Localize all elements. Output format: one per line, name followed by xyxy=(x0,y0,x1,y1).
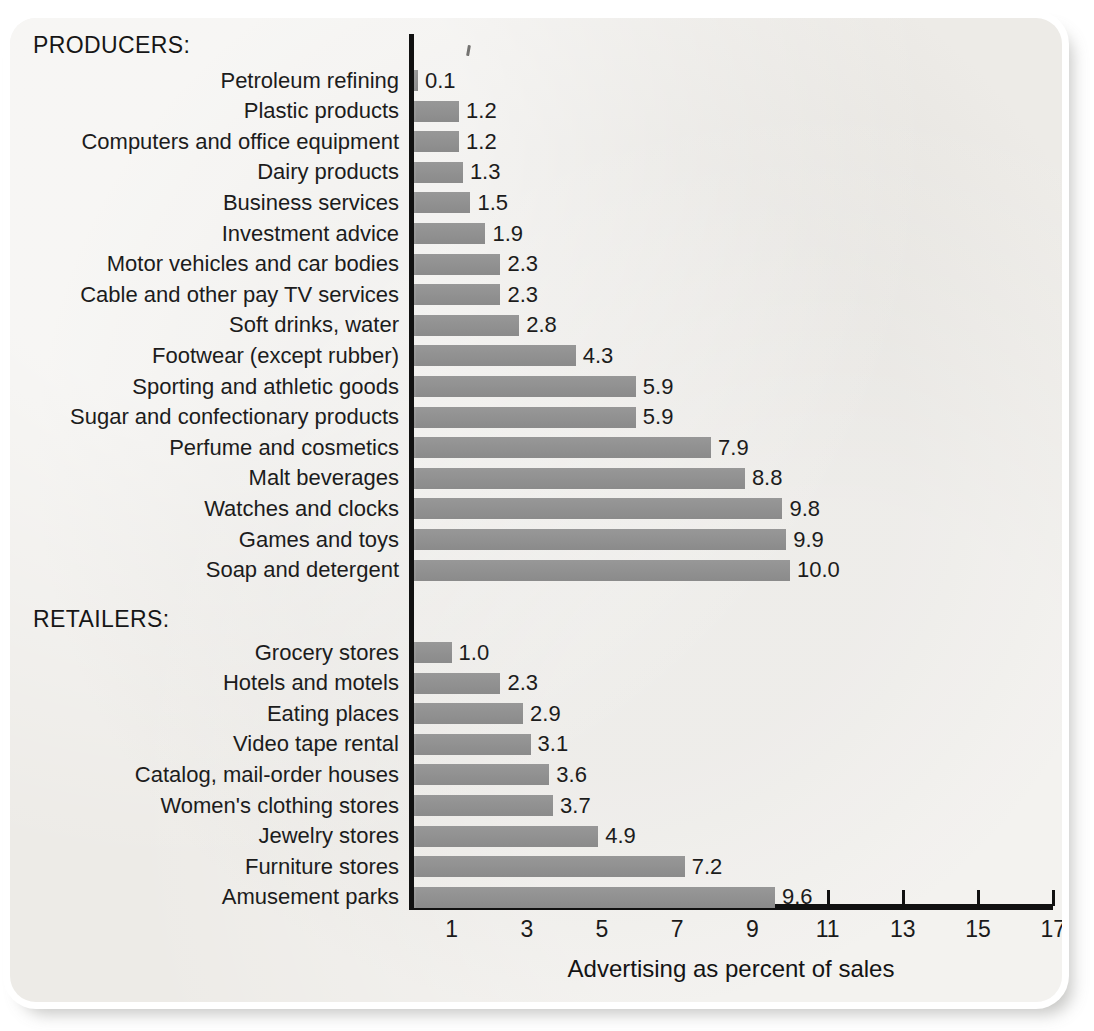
bar xyxy=(414,642,452,663)
category-label: Business services xyxy=(223,191,399,213)
category-label: Investment advice xyxy=(222,222,399,244)
bar-value-label: 4.9 xyxy=(605,825,636,847)
bar xyxy=(414,376,636,397)
bar xyxy=(414,673,500,694)
bar xyxy=(414,131,459,152)
category-label: Cable and other pay TV services xyxy=(80,283,399,305)
bar-row: Jewelry stores4.9 xyxy=(10,826,1062,847)
x-tick-label: 15 xyxy=(958,916,998,943)
bar xyxy=(414,498,782,519)
bar-row: Soap and detergent10.0 xyxy=(10,560,1062,581)
category-label: Women's clothing stores xyxy=(160,794,399,816)
scanned-chart-page: 1357911131517 Petroleum refining0.1Plast… xyxy=(10,18,1062,1002)
bar-value-label: 9.6 xyxy=(782,886,813,908)
bar-row: Footwear (except rubber)4.3 xyxy=(10,345,1062,366)
bar xyxy=(414,407,636,428)
bar xyxy=(414,437,711,458)
category-label: Petroleum refining xyxy=(220,69,399,91)
x-tick-label: 9 xyxy=(732,916,772,943)
horizontal-bar-chart: 1357911131517 Petroleum refining0.1Plast… xyxy=(10,18,1062,1002)
bar-row: Grocery stores1.0 xyxy=(10,642,1062,663)
category-label: Footwear (except rubber) xyxy=(152,344,399,366)
category-label: Plastic products xyxy=(244,100,399,122)
bar-value-label: 7.2 xyxy=(692,855,723,877)
category-label: Eating places xyxy=(267,702,399,724)
bar-value-label: 9.8 xyxy=(789,497,820,519)
category-label: Motor vehicles and car bodies xyxy=(107,253,399,275)
bar-value-label: 1.2 xyxy=(466,130,497,152)
bar-value-label: 1.9 xyxy=(492,222,523,244)
bar xyxy=(414,254,500,275)
bar-row: Eating places2.9 xyxy=(10,703,1062,724)
bar-value-label: 8.8 xyxy=(752,467,783,489)
category-label: Games and toys xyxy=(239,528,399,550)
bar-value-label: 7.9 xyxy=(718,436,749,458)
bar-row: Cable and other pay TV services2.3 xyxy=(10,284,1062,305)
bar-value-label: 2.3 xyxy=(507,283,538,305)
category-label: Jewelry stores xyxy=(258,825,399,847)
bar-value-label: 5.9 xyxy=(643,375,674,397)
bar-row: Sporting and athletic goods5.9 xyxy=(10,376,1062,397)
x-tick-label: 17 xyxy=(1033,916,1062,943)
category-label: Hotels and motels xyxy=(223,672,399,694)
bar-row: Malt beverages8.8 xyxy=(10,468,1062,489)
bar-value-label: 2.3 xyxy=(507,253,538,275)
bar-row: Soft drinks, water2.8 xyxy=(10,315,1062,336)
bar-row: Catalog, mail-order houses3.6 xyxy=(10,764,1062,785)
category-label: Soft drinks, water xyxy=(229,314,399,336)
category-label: Computers and office equipment xyxy=(81,130,399,152)
bar-value-label: 1.5 xyxy=(477,191,508,213)
category-label: Perfume and cosmetics xyxy=(169,436,399,458)
bar-value-label: 10.0 xyxy=(797,559,840,581)
bar xyxy=(414,764,549,785)
bar-value-label: 5.9 xyxy=(643,406,674,428)
bar-row: Watches and clocks9.8 xyxy=(10,498,1062,519)
bar-row: Dairy products1.3 xyxy=(10,162,1062,183)
bar-value-label: 3.7 xyxy=(560,794,591,816)
bar-value-label: 0.1 xyxy=(425,69,456,91)
bar-row: Computers and office equipment1.2 xyxy=(10,131,1062,152)
bar xyxy=(414,70,418,91)
bar xyxy=(414,223,485,244)
bar-row: Investment advice1.9 xyxy=(10,223,1062,244)
bar xyxy=(414,887,775,908)
category-label: Malt beverages xyxy=(249,467,399,489)
x-tick-label: 1 xyxy=(432,916,472,943)
bar-value-label: 2.3 xyxy=(507,672,538,694)
bar-row: Motor vehicles and car bodies2.3 xyxy=(10,254,1062,275)
x-tick-label: 7 xyxy=(657,916,697,943)
bar xyxy=(414,345,576,366)
bar xyxy=(414,101,459,122)
category-label: Watches and clocks xyxy=(204,497,399,519)
bar xyxy=(414,529,786,550)
bar-row: Games and toys9.9 xyxy=(10,529,1062,550)
category-label: Amusement parks xyxy=(222,886,399,908)
x-tick-label: 3 xyxy=(507,916,547,943)
bar xyxy=(414,856,685,877)
bar-value-label: 9.9 xyxy=(793,528,824,550)
category-label: Soap and detergent xyxy=(206,559,399,581)
bar xyxy=(414,560,790,581)
bar-row: Furniture stores7.2 xyxy=(10,856,1062,877)
bar-value-label: 2.9 xyxy=(530,702,561,724)
bar-value-label: 1.0 xyxy=(459,641,490,663)
bar xyxy=(414,315,519,336)
bar-row: Perfume and cosmetics7.9 xyxy=(10,437,1062,458)
bar xyxy=(414,703,523,724)
bar-value-label: 1.2 xyxy=(466,100,497,122)
bar-value-label: 3.1 xyxy=(538,733,569,755)
bar xyxy=(414,734,531,755)
bar xyxy=(414,284,500,305)
bar-value-label: 4.3 xyxy=(583,344,614,366)
x-tick-label: 13 xyxy=(883,916,923,943)
category-label: Sporting and athletic goods xyxy=(132,375,399,397)
category-label: Grocery stores xyxy=(255,641,399,663)
category-label: Dairy products xyxy=(257,161,399,183)
group-heading-retailers: RETAILERS: xyxy=(33,606,170,633)
bar-row: Amusement parks9.6 xyxy=(10,887,1062,908)
bar-row: Sugar and confectionary products5.9 xyxy=(10,407,1062,428)
category-label: Sugar and confectionary products xyxy=(70,406,399,428)
bar xyxy=(414,468,745,489)
bar-row: Petroleum refining0.1 xyxy=(10,70,1062,91)
category-label: Video tape rental xyxy=(233,733,399,755)
